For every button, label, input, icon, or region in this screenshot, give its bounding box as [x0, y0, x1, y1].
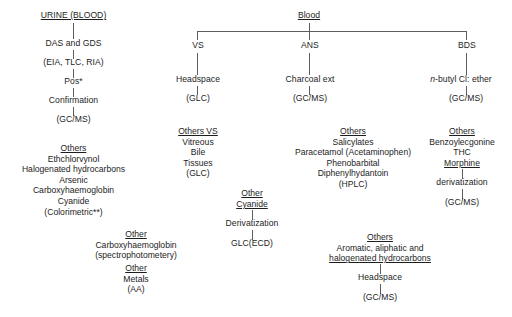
other-metals-block: Other Metals (AA)	[81, 263, 191, 295]
urine-others-item-0: Ethchlorvynol	[0, 154, 147, 165]
other-metals-item-1: (AA)	[81, 284, 191, 295]
others-vs-heading: Others VS	[152, 126, 244, 137]
other-cyanide-step2: GLC(ECD)	[206, 238, 298, 249]
blood-column-vs-step2: (GLC)	[152, 93, 244, 104]
other-carboxy-item-0: Carboxyhaemoglobin	[81, 240, 191, 251]
connector-blood-drop-bds	[466, 31, 467, 40]
urine-step1-label: DAS and GDS	[0, 38, 147, 49]
other-carboxy-heading: Other	[81, 229, 191, 240]
other-cyanide-heading-1: Other	[206, 188, 298, 199]
connector-blood-bus	[197, 31, 467, 32]
others-vs-block: Others VS Vitreous Bile Tissues (GLC)	[152, 126, 244, 179]
connector-blood-stem	[309, 23, 310, 31]
others-bds-step2: (GC/MS)	[412, 197, 512, 208]
others-bds-block: Others Benzoylecgonine THC Morphine	[412, 126, 512, 168]
connector-urine-1	[73, 23, 74, 39]
urine-others-item-1: Halogenated hydrocarbons	[0, 164, 147, 175]
others-bds-item-1: THC	[412, 147, 512, 158]
others-bds-step1: derivatization	[412, 177, 512, 188]
others-vs-item-0: Vitreous	[152, 137, 244, 148]
others-hydrocarbons-item-1: halogenated hydrocarbons	[300, 253, 460, 264]
connector-blood-drop-vs	[197, 31, 198, 40]
urine-step5-label: (GC/MS)	[0, 114, 147, 125]
other-cyanide-heading-2: Cyanide	[206, 199, 298, 210]
blood-column-vs-label: VS	[167, 40, 229, 51]
urine-step4-label: Confirmation	[0, 95, 147, 106]
others-vs-item-3: (GLC)	[152, 168, 244, 179]
others-hydrocarbons-block: Others Aromatic, aliphatic and halogenat…	[300, 232, 460, 264]
connector-ans-1	[309, 53, 310, 75]
urine-others-heading: Others	[0, 143, 147, 154]
urine-root-label: URINE (BLOOD)	[0, 10, 147, 21]
blood-column-ans-step1: Charcoal ext	[264, 74, 356, 85]
connector-vs-1	[197, 53, 198, 75]
others-hydrocarbons-step2: (GC/MS)	[300, 292, 460, 303]
other-metals-item-0: Metals	[81, 274, 191, 285]
other-cyanide-block: Other Cyanide	[206, 188, 298, 209]
other-cyanide-step1: Derivatization	[206, 218, 298, 229]
others-bds-heading: Others	[412, 126, 512, 137]
bds-step1-rest: -butyl Cl: ether	[435, 74, 492, 84]
flowchart-canvas: URINE (BLOOD) DAS and GDS (EIA, TLC, RIA…	[0, 0, 512, 317]
others-hydrocarbons-heading: Others	[300, 232, 460, 243]
blood-column-bds-step1: n-butyl Cl: ether	[410, 74, 512, 85]
blood-column-vs-step1: Headspace	[152, 74, 244, 85]
urine-others-item-5: (Colorimetric**)	[0, 207, 147, 218]
urine-others-item-2: Arsenic	[0, 175, 147, 186]
other-metals-heading: Other	[81, 263, 191, 274]
blood-column-ans-step2: (GC/MS)	[264, 93, 356, 104]
urine-step2-label: (EIA, TLC, RIA)	[0, 57, 147, 68]
others-vs-item-2: Tissues	[152, 158, 244, 169]
urine-others-block: Others Ethchlorvynol Halogenated hydroca…	[0, 143, 147, 217]
other-carboxy-item-1: (spectrophotometery)	[81, 250, 191, 261]
others-bds-item-0: Benzoylecgonine	[412, 137, 512, 148]
connector-bds-1	[466, 53, 467, 75]
urine-step3-label: Pos*	[0, 76, 147, 87]
urine-others-item-3: Carboxyhaemoglobin	[0, 185, 147, 196]
others-hydrocarbons-step1: Headspace	[300, 272, 460, 283]
others-vs-item-1: Bile	[152, 147, 244, 158]
blood-column-bds-label: BDS	[436, 40, 498, 51]
connector-blood-drop-ans	[309, 31, 310, 40]
others-bds-item-2: Morphine	[412, 158, 512, 169]
blood-root-label: Blood	[278, 10, 340, 21]
blood-column-bds-step2: (GC/MS)	[420, 93, 512, 104]
blood-column-ans-label: ANS	[279, 40, 341, 51]
urine-others-item-4: Cyanide	[0, 196, 147, 207]
other-carboxy-block: Other Carboxyhaemoglobin (spectrophotome…	[81, 229, 191, 261]
others-hydrocarbons-item-0: Aromatic, aliphatic and	[300, 243, 460, 254]
